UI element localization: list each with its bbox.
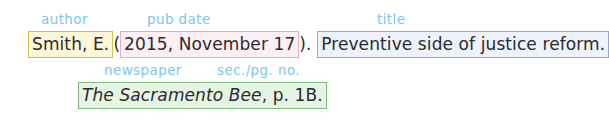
citation-line-2: The Sacramento Bee, p. 1B. [78, 82, 327, 109]
citation-title: Preventive side of justice reform. [317, 31, 609, 58]
annotation-label-newspaper: newspaper [104, 64, 182, 78]
annotation-label-pub-date: pub date [147, 13, 211, 27]
annotation-label-title: title [377, 13, 405, 27]
citation-close-paren-period: ). [299, 32, 311, 57]
citation-pub-date: 2015, November 17 [120, 31, 299, 58]
annotation-label-sec-pg-no: sec./pg. no. [217, 64, 300, 78]
citation-author: Smith, E. [28, 31, 113, 58]
citation-open-paren: ( [113, 32, 120, 57]
annotation-label-author: author [41, 13, 88, 27]
citation-source-group: The Sacramento Bee, p. 1B. [78, 82, 327, 109]
citation-line-1: Smith, E.(2015, November 17). Preventive… [28, 31, 609, 58]
citation-newspaper: The Sacramento Bee [82, 85, 262, 105]
citation-sec-pg-no: , p. 1B. [262, 85, 323, 105]
